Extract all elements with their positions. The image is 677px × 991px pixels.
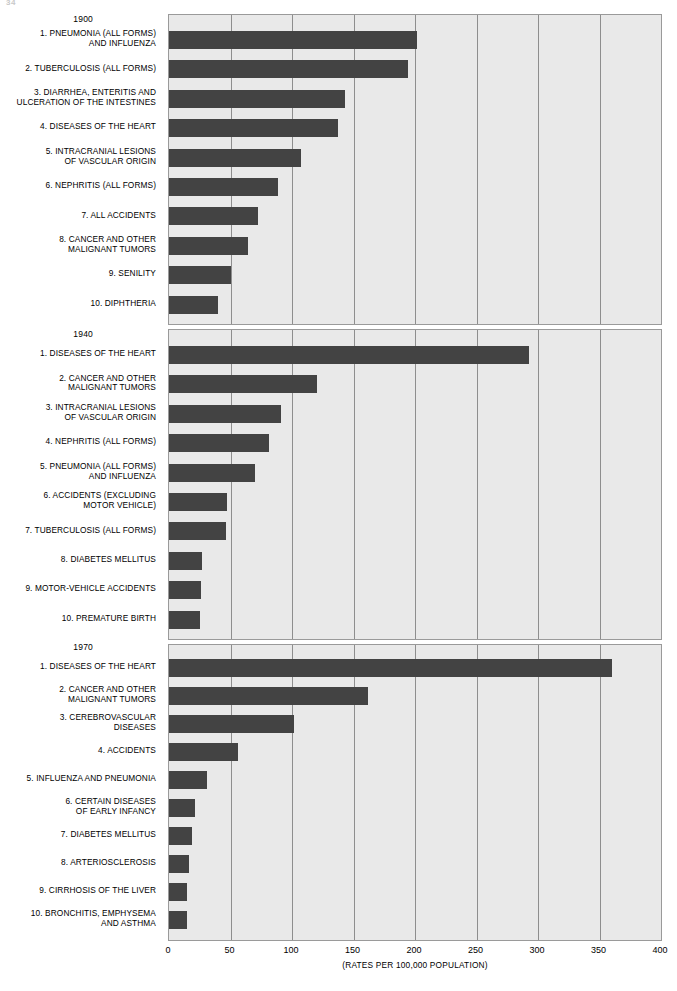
bar <box>169 493 227 511</box>
category-label-line: OF VASCULAR ORIGIN <box>0 413 156 423</box>
category-label-line: 9. CIRRHOSIS OF THE LIVER <box>0 886 156 896</box>
bar-row <box>169 434 661 452</box>
category-label: 5. INTRACRANIAL LESIONSOF VASCULAR ORIGI… <box>0 147 156 166</box>
bar-row <box>169 119 661 137</box>
category-label: 5. INFLUENZA AND PNEUMONIA <box>0 774 156 784</box>
x-tick-label-0: 0 <box>165 945 170 955</box>
bar <box>169 119 338 137</box>
x-tick-label-150: 150 <box>345 945 360 955</box>
category-label-line: 8. ARTERIOSCLEROSIS <box>0 858 156 868</box>
category-label-line: 1. DISEASES OF THE HEART <box>0 349 156 359</box>
x-tick-label-250: 250 <box>468 945 483 955</box>
bar-rows-1970 <box>169 645 661 940</box>
bar-row <box>169 149 661 167</box>
category-label: 8. CANCER AND OTHERMALIGNANT TUMORS <box>0 235 156 254</box>
category-label-line: MALIGNANT TUMORS <box>0 383 156 393</box>
figure-root: 34 1900 1. PNEUMONIA (ALL FORMS)AND INFL… <box>0 0 677 991</box>
category-label-line: OF EARLY INFANCY <box>0 807 156 817</box>
bar-row <box>169 715 661 733</box>
category-label: 1. DISEASES OF THE HEART <box>0 662 156 672</box>
bar-row <box>169 827 661 845</box>
category-label: 1. DISEASES OF THE HEART <box>0 349 156 359</box>
x-tick-label-300: 300 <box>529 945 544 955</box>
chart-panel-1940 <box>168 329 662 640</box>
category-label-line: 7. ALL ACCIDENTS <box>0 211 156 221</box>
bar-row <box>169 346 661 364</box>
category-label-line: 9. SENILITY <box>0 269 156 279</box>
category-label-line: 1. DISEASES OF THE HEART <box>0 662 156 672</box>
category-label-line: 5. INFLUENZA AND PNEUMONIA <box>0 774 156 784</box>
category-label-line: 10. PREMATURE BIRTH <box>0 614 156 624</box>
bar-row <box>169 60 661 78</box>
category-label: 7. TUBERCULOSIS (ALL FORMS) <box>0 526 156 536</box>
category-label: 10. PREMATURE BIRTH <box>0 614 156 624</box>
bar-row <box>169 31 661 49</box>
bar <box>169 911 187 929</box>
bar-row <box>169 771 661 789</box>
bar-row <box>169 207 661 225</box>
category-label: 7. DIABETES MELLITUS <box>0 830 156 840</box>
category-label: 8. DIABETES MELLITUS <box>0 555 156 565</box>
bar <box>169 659 612 677</box>
category-label: 5. PNEUMONIA (ALL FORMS)AND INFLUENZA <box>0 462 156 481</box>
bar-row <box>169 405 661 423</box>
category-label-line: AND ASTHMA <box>0 919 156 929</box>
bar-row <box>169 266 661 284</box>
bar <box>169 883 187 901</box>
bar <box>169 434 269 452</box>
category-label-line: MOTOR VEHICLE) <box>0 501 156 511</box>
category-label-line: 9. MOTOR-VEHICLE ACCIDENTS <box>0 584 156 594</box>
category-label: 8. ARTERIOSCLEROSIS <box>0 858 156 868</box>
bar-row <box>169 90 661 108</box>
bar-row <box>169 237 661 255</box>
bar-row <box>169 799 661 817</box>
bar <box>169 405 281 423</box>
page-number: 34 <box>6 0 16 7</box>
bar <box>169 60 408 78</box>
category-label-line: MALIGNANT TUMORS <box>0 245 156 255</box>
category-label-line: 10. DIPHTHERIA <box>0 299 156 309</box>
bar <box>169 207 258 225</box>
x-tick-label-100: 100 <box>283 945 298 955</box>
bar <box>169 743 238 761</box>
category-label: 2. CANCER AND OTHERMALIGNANT TUMORS <box>0 685 156 704</box>
bar-row <box>169 855 661 873</box>
category-label-line: 4. ACCIDENTS <box>0 746 156 756</box>
category-label: 3. DIARRHEA, ENTERITIS ANDULCERATION OF … <box>0 88 156 107</box>
category-label: 4. NEPHRITIS (ALL FORMS) <box>0 437 156 447</box>
page-running-head: 34 <box>6 0 50 7</box>
panel-year-1940: 1940 <box>73 329 93 339</box>
bar <box>169 149 301 167</box>
bar-row <box>169 883 661 901</box>
bar <box>169 31 417 49</box>
category-label-line: 8. DIABETES MELLITUS <box>0 555 156 565</box>
x-tick-label-50: 50 <box>224 945 234 955</box>
category-label-line: 4. NEPHRITIS (ALL FORMS) <box>0 437 156 447</box>
chart-panel-1900 <box>168 14 662 325</box>
category-label-line: OF VASCULAR ORIGIN <box>0 157 156 167</box>
category-label: 4. DISEASES OF THE HEART <box>0 122 156 132</box>
x-axis: (RATES PER 100,000 POPULATION) 050100150… <box>168 941 662 991</box>
category-label-line: DISEASES <box>0 723 156 733</box>
bar-row <box>169 687 661 705</box>
category-label: 9. MOTOR-VEHICLE ACCIDENTS <box>0 584 156 594</box>
x-axis-caption: (RATES PER 100,000 POPULATION) <box>168 960 662 970</box>
bar-row <box>169 296 661 314</box>
bar <box>169 611 200 629</box>
category-label-line: AND INFLUENZA <box>0 39 156 49</box>
bar <box>169 552 202 570</box>
bar <box>169 799 195 817</box>
bar <box>169 464 255 482</box>
bar <box>169 375 317 393</box>
bar-rows-1900 <box>169 15 661 324</box>
bar <box>169 90 345 108</box>
category-label: 7. ALL ACCIDENTS <box>0 211 156 221</box>
category-label: 1. PNEUMONIA (ALL FORMS)AND INFLUENZA <box>0 29 156 48</box>
bar <box>169 827 192 845</box>
category-label: 9. SENILITY <box>0 269 156 279</box>
category-label-line: 7. DIABETES MELLITUS <box>0 830 156 840</box>
category-label-line: 7. TUBERCULOSIS (ALL FORMS) <box>0 526 156 536</box>
bar-row <box>169 552 661 570</box>
category-label: 2. TUBERCULOSIS (ALL FORMS) <box>0 64 156 74</box>
bar <box>169 715 294 733</box>
